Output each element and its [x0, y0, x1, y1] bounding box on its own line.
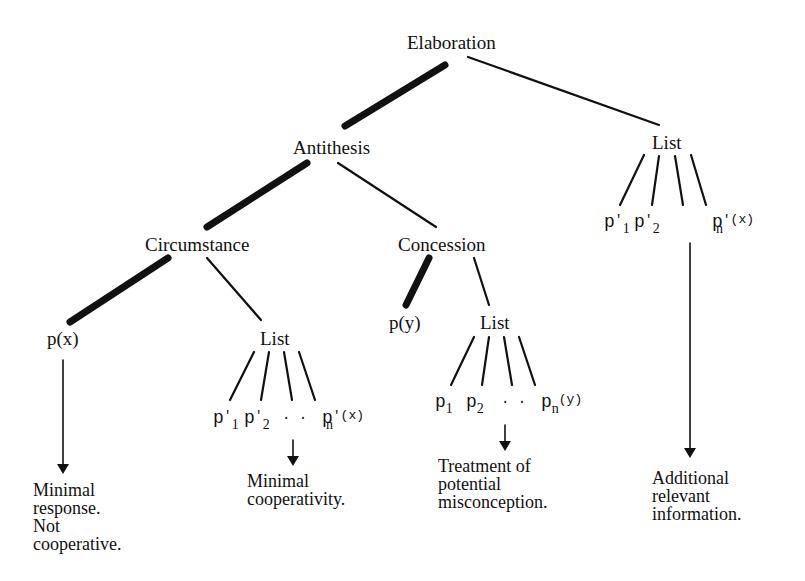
leaf-right-p1: p′1: [604, 212, 630, 237]
right-list-fan: [620, 155, 706, 205]
leaf-circ-p1: p′1: [213, 408, 239, 433]
leaf-right-p2: p′2: [634, 212, 660, 237]
arrowheads: [57, 441, 696, 474]
edge-elaboration-antithesis: [345, 65, 445, 126]
node-circumstance: Circumstance: [145, 235, 249, 255]
leaf-circ-dots: · ·: [282, 410, 307, 426]
leaf-conc-p1: p1: [435, 392, 453, 417]
edge-circumstance-list: [207, 258, 261, 320]
leaf-conc-dots: · ·: [501, 394, 526, 410]
leaf-right-pn: p′(x)n: [712, 212, 723, 237]
note-circ-list: Minimal cooperativity.: [247, 472, 345, 508]
note-conc-list: Treatment of potential misconception.: [438, 457, 547, 511]
edge-circumstance-px: [70, 258, 168, 322]
edge-elaboration-list: [468, 57, 659, 125]
leaf-conc-p2: p2: [466, 392, 484, 417]
circumstance-list-fan: [230, 352, 315, 400]
edge-concession-list: [474, 258, 489, 305]
note-right-list: Additional relevant information.: [652, 469, 741, 523]
node-concession: Concession: [398, 235, 486, 255]
node-elaboration: Elaboration: [407, 33, 496, 53]
concession-list-fan: [451, 337, 535, 385]
node-px: p(x): [47, 329, 79, 349]
node-list-concession: List: [480, 313, 510, 333]
leaf-conc-pn: pn(y): [541, 392, 582, 417]
edge-antithesis-circumstance: [207, 163, 307, 227]
leaf-circ-pn: p′(x)n: [322, 408, 333, 433]
note-px: Minimal response. Not cooperative.: [33, 481, 121, 553]
node-list-circumstance: List: [260, 329, 290, 349]
node-py: p(y): [389, 313, 421, 333]
edge-concession-py: [406, 258, 429, 305]
node-antithesis: Antithesis: [293, 138, 370, 158]
node-list-right: List: [652, 133, 682, 153]
arrows: [63, 243, 690, 468]
leaf-circ-p2: p′2: [244, 408, 270, 433]
edge-antithesis-concession: [338, 163, 436, 227]
